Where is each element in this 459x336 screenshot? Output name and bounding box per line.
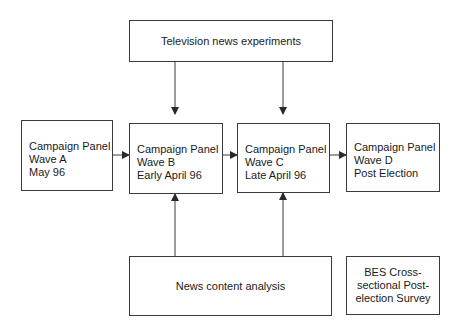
node-bes-survey: BES Cross- sectional Post- election Surv… [346, 256, 440, 315]
node-line: Post Election [354, 167, 435, 180]
node-line: Campaign Panel [29, 140, 110, 153]
node-label: Television news experiments [161, 35, 301, 48]
node-wave-b: Campaign Panel Wave B Early April 96 [129, 123, 223, 194]
node-line: Late April 96 [245, 169, 326, 182]
node-wave-d: Campaign Panel Wave D Post Election [346, 123, 440, 192]
node-wave-c: Campaign Panel Wave C Late April 96 [237, 123, 330, 193]
node-wave-a: Campaign Panel Wave A May 96 [21, 120, 113, 191]
node-line: Early April 96 [137, 169, 218, 182]
node-line: May 96 [29, 166, 110, 179]
node-news-content-analysis: News content analysis [129, 256, 332, 316]
node-television-news-experiments: Television news experiments [129, 20, 333, 62]
node-line: Wave D [354, 154, 435, 167]
node-line: Wave A [29, 153, 110, 166]
node-line: sectional Post- [355, 279, 430, 292]
node-line: Campaign Panel [245, 143, 326, 156]
node-line: Wave B [137, 156, 218, 169]
node-line: Campaign Panel [354, 141, 435, 154]
node-line: Wave C [245, 156, 326, 169]
node-line: election Survey [355, 292, 430, 305]
node-line: Campaign Panel [137, 143, 218, 156]
node-line: BES Cross- [355, 266, 430, 279]
node-label: News content analysis [176, 280, 285, 293]
